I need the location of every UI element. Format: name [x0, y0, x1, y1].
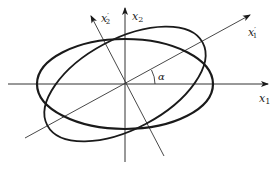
diagram-canvas: α x1 x2 x′1 x′2 — [0, 0, 279, 169]
x1-prime-label: x′1 — [248, 26, 257, 40]
x1-label: x1 — [259, 92, 270, 106]
x2-label: x2 — [132, 10, 143, 24]
x2-prime-axis — [91, 16, 164, 156]
x1-prime-axis — [25, 15, 250, 138]
x2-prime-label: x′2 — [101, 12, 110, 26]
alpha-label: α — [158, 71, 165, 82]
alpha-angle-arc — [152, 70, 156, 84]
